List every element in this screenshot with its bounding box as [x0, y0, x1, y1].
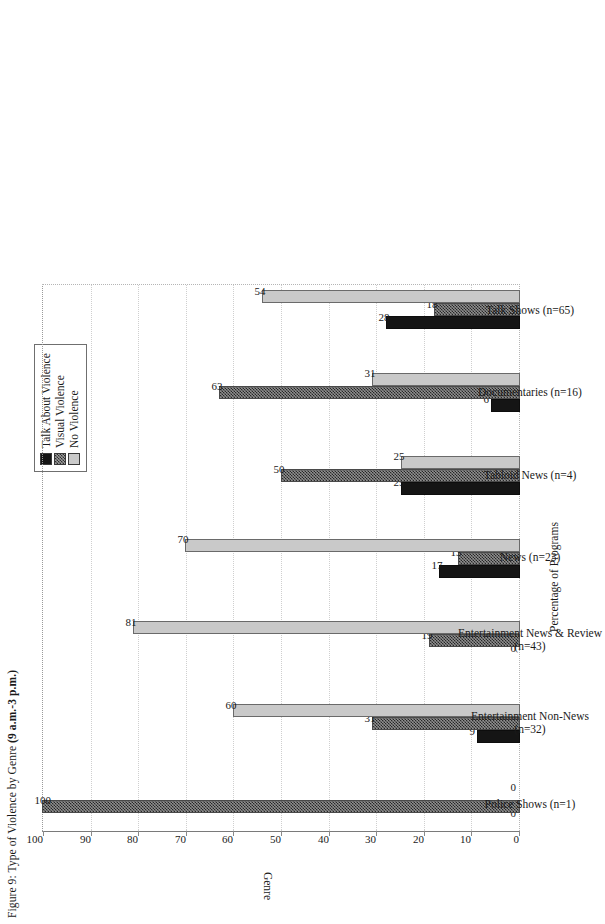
category-label-text: Tabloid News (n=4) — [455, 469, 605, 482]
bar: 25 — [401, 456, 521, 469]
bar: 70 — [185, 539, 520, 552]
axis-tick-label: 20 — [398, 833, 424, 845]
bar-value-label: 60 — [226, 700, 237, 711]
bar-value-label: 28 — [379, 312, 390, 323]
axis-tick-label: 10 — [445, 833, 471, 845]
category-label: Documentaries (n=16) — [524, 372, 584, 414]
category-axis-title: Genre — [262, 872, 274, 900]
value-axis-title: Percentage of Programs — [548, 522, 560, 632]
bar-value-label: 31 — [364, 368, 375, 379]
category-label-text: Police Shows (n=1) — [455, 798, 605, 811]
axis-tick-label: 0 — [493, 833, 519, 845]
axis-tick-label: 60 — [207, 833, 233, 845]
bar: 17 — [439, 565, 520, 578]
bar-group: 93160 — [42, 704, 520, 743]
bar-group: 281854 — [42, 290, 520, 329]
bar-group: 01000 — [42, 787, 520, 826]
category-label-text: News (n=23) — [455, 551, 605, 564]
bar-groups: 01000931600198117137025502566331281854 — [42, 284, 520, 832]
axis-tick-label: 90 — [65, 833, 91, 845]
bar-value-label: 17 — [431, 560, 442, 571]
axis-tick-label: 70 — [160, 833, 186, 845]
bar-group: 255025 — [42, 456, 520, 495]
bar-value-label: 63 — [211, 381, 222, 392]
bar-value-label: 54 — [254, 286, 265, 297]
bar: 100 — [42, 800, 520, 813]
bar: 25 — [401, 482, 521, 495]
category-label: Police Shows (n=1) — [524, 784, 584, 826]
axis-tick-label: 30 — [350, 833, 376, 845]
figure-title-emphasis: (9 a.m.-3 p.m.) — [6, 670, 18, 743]
bar-group: 01981 — [42, 621, 520, 660]
bar: 0 — [519, 813, 520, 826]
bar: 31 — [372, 373, 520, 386]
category-label-text: Entertainment Non-News (n=32) — [455, 709, 605, 735]
bar-value-label: 100 — [35, 796, 52, 807]
bar: 6 — [491, 399, 520, 412]
category-label: Entertainment Non-News (n=32) — [524, 702, 584, 744]
bar-group: 171370 — [42, 539, 520, 578]
plot-area: 0102030405060708090100 01000931600198117… — [42, 284, 520, 832]
bar-value-label: 25 — [393, 451, 404, 462]
category-label-text: Talk Shows (n=65) — [455, 304, 605, 317]
axis-tick-label: 80 — [112, 833, 138, 845]
axis-tick-label: 100 — [17, 833, 43, 845]
bar-value-label: 70 — [178, 534, 189, 545]
bar: 28 — [386, 316, 520, 329]
page-title: Figure 9: Type of Violence by Genre (9 a… — [6, 670, 18, 918]
bar: 54 — [262, 290, 520, 303]
bar-value-label: 81 — [125, 617, 136, 628]
category-label: Talk Shows (n=65) — [524, 290, 584, 332]
bar-group: 66331 — [42, 373, 520, 412]
axis-tick-label: 50 — [255, 833, 281, 845]
category-label-text: Documentaries (n=16) — [455, 387, 605, 400]
bar-value-label: 50 — [274, 464, 285, 475]
axis-tick-label: 40 — [303, 833, 329, 845]
figure-title-prefix: Figure 9: Type of Violence by Genre — [6, 743, 18, 918]
bar-value-label: 0 — [511, 783, 517, 794]
category-label: Tabloid News (n=4) — [524, 455, 584, 497]
category-label-text: Entertainment News & Review (n=43) — [455, 627, 605, 653]
